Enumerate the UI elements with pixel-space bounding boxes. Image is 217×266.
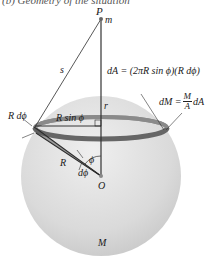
shell-geometry-diagram: (b) Geometry of the situation P m s r R … xyxy=(0,0,217,266)
label-r: r xyxy=(104,101,108,111)
label-R: R xyxy=(60,158,66,168)
label-o: O xyxy=(98,181,105,191)
leader-dM xyxy=(166,113,182,130)
label-dphi: dϕ xyxy=(78,168,88,178)
equation-dM-rhs: dA xyxy=(193,97,204,107)
label-s: s xyxy=(60,65,64,75)
point-o-dot xyxy=(99,174,103,178)
equation-dA: dA = (2πR sin ϕ)(R dϕ) xyxy=(107,66,200,76)
label-M: M xyxy=(98,238,106,248)
label-phi: ϕ xyxy=(89,155,94,165)
equation-dM-lhs: dM = xyxy=(159,97,182,107)
label-m: m xyxy=(105,15,112,25)
fraction-denominator: A xyxy=(185,102,191,111)
figure-caption: (b) Geometry of the situation xyxy=(2,0,130,6)
label-ring-radius: R sin ϕ xyxy=(56,113,84,123)
diagram-canvas xyxy=(0,0,217,266)
point-p-dot xyxy=(99,17,103,21)
equation-dM-fraction: M A xyxy=(183,92,193,111)
label-ring-width: R dϕ xyxy=(8,111,27,121)
equation-dM: dM = M A dA xyxy=(159,92,204,111)
label-p: P xyxy=(96,6,103,17)
